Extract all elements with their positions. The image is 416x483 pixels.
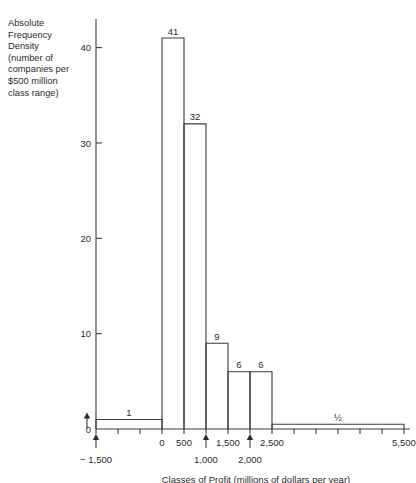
bar-value-label: 6	[258, 359, 263, 370]
bar-value-label: 1	[126, 407, 131, 418]
bar-value-label: ½	[334, 412, 342, 423]
histogram-bar	[206, 343, 228, 429]
x-arrow-label: 1,000	[194, 454, 218, 465]
bar-value-label: 32	[190, 111, 201, 122]
x-arrow-marker	[93, 434, 99, 448]
y-tick-label: 30	[80, 138, 91, 149]
x-tick-label: 1,500	[216, 437, 240, 448]
x-arrow-marker	[247, 434, 253, 448]
histogram-bar	[184, 124, 206, 429]
bar-value-label: 9	[214, 331, 219, 342]
histogram-bar	[162, 38, 184, 429]
histogram-bar	[272, 424, 404, 429]
histogram-figure: Absolute Frequency Density (number of co…	[0, 0, 416, 483]
y-axis-title: Absolute Frequency Density (number of co…	[8, 18, 94, 99]
labels-group: 01020304005001,5002,5005,500− 1,5001,000…	[80, 26, 416, 483]
axes-group	[84, 19, 410, 448]
y-tick-label: 0	[86, 424, 91, 435]
x-tick-label: 2,500	[260, 437, 284, 448]
bars-group	[96, 38, 404, 429]
x-arrow-marker	[203, 434, 209, 448]
bar-value-label: 41	[168, 26, 179, 37]
y-tick-label: 10	[80, 328, 91, 339]
y-tick-label: 20	[80, 233, 91, 244]
x-arrow-label: − 1,500	[80, 454, 112, 465]
histogram-bar	[250, 372, 272, 429]
bar-value-label: 6	[236, 359, 241, 370]
x-tick-label: 500	[176, 437, 192, 448]
x-tick-label: 5,500	[392, 437, 416, 448]
x-arrow-label: 2,000	[238, 454, 262, 465]
histogram-bar	[96, 419, 162, 429]
histogram-bar	[228, 372, 250, 429]
x-tick-label: 0	[159, 437, 164, 448]
x-axis-title: Classes of Profit (millions of dollars p…	[162, 474, 350, 483]
